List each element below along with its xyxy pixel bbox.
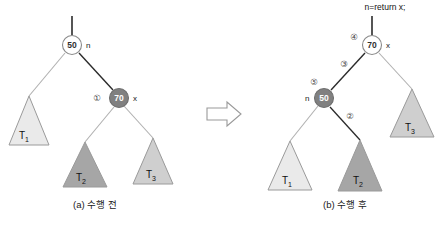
transform-arrow-icon <box>207 102 241 126</box>
before-edge-50-70 <box>79 53 113 90</box>
after-edge-70-t3 <box>379 53 412 89</box>
after-edge-50-t1 <box>290 106 318 141</box>
after-step-5-label: ⑤ <box>310 77 318 87</box>
after-node-50-value: 50 <box>319 93 329 103</box>
before-node-70-value: 70 <box>114 93 124 103</box>
before-diagram: T1 T2 T3 50 n 70 x ① (a) 수행 전 <box>9 16 173 210</box>
after-node-70-value: 70 <box>367 40 377 50</box>
before-edge-70-t2 <box>85 107 114 142</box>
after-caption: (b) 수행 후 <box>323 199 367 210</box>
before-step-1-label: ① <box>93 93 101 103</box>
after-diagram: n=return x; T3 T1 T2 70 x ④ ③ <box>268 2 434 210</box>
before-node-70-pointer: x <box>133 94 137 103</box>
after-node-50-pointer: n <box>305 94 309 103</box>
after-edge-70-50 <box>331 53 365 90</box>
after-step-2-label: ② <box>346 111 354 121</box>
rotation-diagram: T1 T2 T3 50 n 70 x ① (a) 수행 전 n=return x… <box>0 0 442 227</box>
after-edge-50-t2 <box>330 107 360 140</box>
before-caption: (a) 수행 전 <box>73 199 117 210</box>
before-node-50-pointer: n <box>86 41 90 50</box>
before-node-50-value: 50 <box>67 40 77 50</box>
after-node-70-pointer: x <box>386 41 390 50</box>
after-step-4-label: ④ <box>350 32 358 42</box>
before-edge-70-t3 <box>124 106 153 138</box>
before-edge-50-t1 <box>29 53 65 96</box>
after-code-label: n=return x; <box>365 2 406 12</box>
after-step-3-label: ③ <box>340 59 348 69</box>
